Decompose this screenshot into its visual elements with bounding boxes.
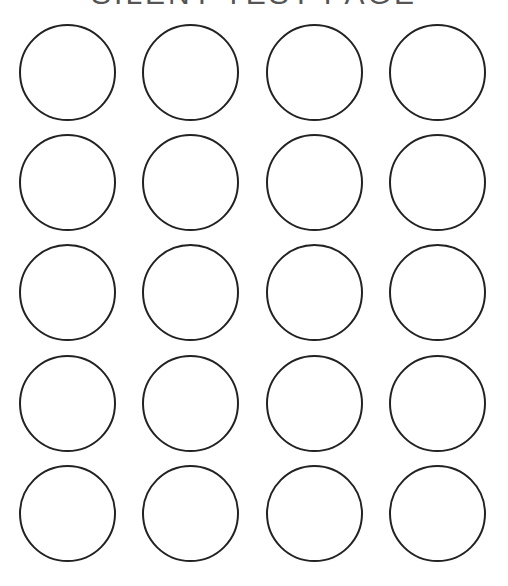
circle-label-r4-c3 [266,355,363,452]
circle-label-r2-c3 [266,134,363,231]
circle-label-r4-c4 [389,355,486,452]
circle-label-r3-c3 [266,244,363,341]
circle-label-r3-c4 [389,244,486,341]
circle-label-r2-c1 [19,134,116,231]
circle-label-r4-c2 [142,355,239,452]
circle-label-r2-c2 [142,134,239,231]
circle-label-r5-c2 [142,465,239,562]
circle-label-r5-c1 [19,465,116,562]
circle-label-r3-c1 [19,244,116,341]
circle-label-r1-c1 [19,24,116,121]
circle-label-r4-c1 [19,355,116,452]
circle-label-r5-c3 [266,465,363,562]
circle-label-r1-c2 [142,24,239,121]
circle-label-r2-c4 [389,134,486,231]
circle-label-r1-c4 [389,24,486,121]
label-sheet [0,0,508,586]
circle-label-r3-c2 [142,244,239,341]
circle-label-r5-c4 [389,465,486,562]
circle-label-r1-c3 [266,24,363,121]
